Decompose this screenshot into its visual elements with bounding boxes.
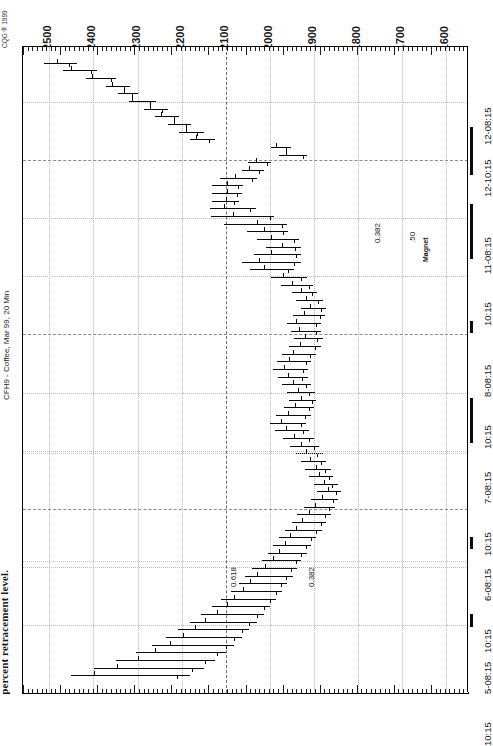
ohlc-close-tick (303, 155, 304, 159)
ohlc-open-tick (243, 587, 244, 591)
axis-tick (125, 689, 126, 693)
axis-tick (28, 689, 29, 693)
ohlc-bar (168, 124, 192, 125)
ohlc-open-tick (302, 518, 303, 522)
ohlc-open-tick (271, 235, 272, 239)
ohlc-close-tick (294, 262, 295, 266)
axis-tick (324, 47, 325, 51)
tick-rail-bottom (23, 684, 468, 693)
ohlc-close-tick (301, 553, 302, 557)
ohlc-bar (292, 292, 318, 293)
axis-tick (366, 47, 367, 51)
axis-tick (371, 689, 372, 693)
ohlc-close-tick (317, 338, 318, 342)
ohlc-open-tick (315, 503, 316, 507)
ohlc-bar (190, 622, 257, 623)
axis-tick (426, 47, 427, 51)
ohlc-bar (301, 308, 326, 309)
axis-tick (357, 47, 358, 55)
ohlc-bar (271, 147, 291, 148)
axis-tick (102, 47, 103, 51)
session-marker (470, 614, 473, 627)
ohlc-open-tick (279, 549, 280, 553)
ohlc-close-tick (270, 599, 271, 603)
ohlc-open-tick (57, 59, 58, 63)
axis-tick (361, 689, 362, 693)
axis-tick (120, 47, 121, 51)
axis-tick (111, 47, 112, 51)
axis-tick (264, 47, 265, 51)
axis-tick (232, 47, 233, 51)
ohlc-close-tick (325, 469, 326, 473)
ohlc-close-tick (226, 645, 227, 649)
ohlc-open-tick (124, 89, 125, 93)
fibonacci-annotation: .50 (408, 232, 417, 243)
time-axis-label: 10:15 (482, 723, 493, 746)
axis-tick (79, 47, 80, 51)
ohlc-close-tick (325, 514, 326, 518)
ohlc-bar (144, 109, 167, 110)
axis-tick (241, 47, 242, 51)
ohlc-open-tick (265, 564, 266, 568)
axis-tick (125, 47, 126, 51)
ohlc-close-tick (286, 576, 287, 580)
axis-tick (436, 689, 437, 693)
ohlc-open-tick (309, 510, 310, 514)
ohlc-bar (129, 101, 156, 102)
ohlc-open-tick (94, 671, 95, 675)
ohlc-close-tick (291, 568, 292, 572)
ohlc-close-tick (302, 377, 303, 381)
ohlc-open-tick (286, 426, 287, 430)
ohlc-open-tick (292, 281, 293, 285)
ohlc-open-tick (226, 197, 227, 201)
axis-tick (315, 47, 316, 51)
ohlc-bar (166, 637, 243, 638)
ohlc-open-tick (257, 572, 258, 576)
ohlc-bar (294, 338, 322, 339)
axis-tick (148, 47, 149, 51)
ohlc-bar (296, 300, 323, 301)
axis-tick (157, 689, 158, 693)
fibonacci-level-line (23, 453, 468, 454)
ohlc-bar (152, 645, 235, 646)
axis-tick (408, 47, 409, 51)
axis-tick (380, 47, 381, 51)
ohlc-open-tick (249, 166, 250, 170)
ohlc-close-tick (303, 430, 304, 434)
time-axis-label: 12-08:15 (482, 108, 493, 146)
ohlc-close-tick (264, 606, 265, 610)
ohlc-close-tick (303, 369, 304, 373)
ohlc-close-tick (315, 346, 316, 350)
horizontal-gridline (23, 451, 468, 452)
ohlc-close-tick (309, 438, 310, 442)
ohlc-bar (242, 262, 301, 263)
axis-tick (153, 689, 154, 693)
ohlc-close-tick (296, 254, 297, 258)
axis-tick (449, 689, 450, 693)
axis-tick (320, 685, 321, 693)
axis-tick (69, 47, 70, 51)
ohlc-open-tick (293, 350, 294, 354)
axis-tick (218, 689, 219, 693)
ohlc-open-tick (301, 288, 302, 292)
ohlc-open-tick (257, 220, 258, 224)
ohlc-open-tick (296, 319, 297, 323)
axis-tick (287, 689, 288, 693)
ohlc-open-tick (196, 135, 197, 139)
axis-tick (232, 689, 233, 693)
fibonacci-annotation: 0.618 (229, 567, 238, 587)
ohlc-open-tick (224, 204, 225, 208)
ohlc-open-tick (306, 296, 307, 300)
axis-tick (426, 689, 427, 693)
axis-tick (204, 47, 205, 51)
ohlc-bar (179, 132, 203, 133)
axis-tick (116, 689, 117, 693)
axis-tick (60, 685, 61, 693)
ohlc-bar (220, 178, 256, 179)
axis-tick (162, 47, 163, 51)
axis-tick (422, 47, 423, 51)
ohlc-open-tick (301, 442, 302, 446)
ohlc-bar (311, 499, 338, 500)
axis-tick (343, 689, 344, 693)
ohlc-open-tick (288, 373, 289, 377)
